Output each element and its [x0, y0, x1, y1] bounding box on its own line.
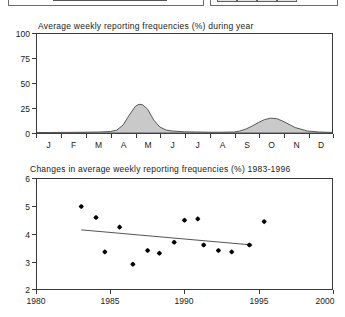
- trend-ytick-4: 4: [6, 230, 30, 240]
- trend-point: [157, 251, 162, 256]
- trend-point: [195, 216, 200, 221]
- trend-chart-title: Changes in average weekly reporting freq…: [30, 164, 290, 174]
- trend-point: [117, 225, 122, 230]
- trend-ytick-5: 5: [6, 202, 30, 212]
- trend-point: [102, 249, 107, 254]
- trend-chart: Changes in average weekly reporting freq…: [0, 0, 345, 317]
- trend-xtick-mark-2000: [333, 290, 334, 294]
- trend-point: [201, 242, 206, 247]
- trend-plot-area: [36, 178, 333, 290]
- trend-point: [229, 249, 234, 254]
- trend-xtick-mark-1990: [184, 290, 185, 294]
- trend-point: [93, 215, 98, 220]
- figure-page: Average weekly reporting frequencies (%)…: [0, 0, 345, 317]
- trend-xtick-1995: 1995: [239, 296, 279, 306]
- trend-xtick-2000: 2000: [305, 296, 345, 306]
- trend-xtick-1990: 1990: [164, 296, 204, 306]
- trend-ytick-6: 6: [6, 174, 30, 184]
- trend-xtick-mark-1995: [259, 290, 260, 294]
- trend-xtick-mark-1985: [110, 290, 111, 294]
- trend-point: [262, 219, 267, 224]
- trend-xtick-mark-1980: [36, 290, 37, 294]
- trend-xtick-1980: 1980: [16, 296, 56, 306]
- trend-point: [247, 242, 252, 247]
- trend-xtick-1985: 1985: [90, 296, 130, 306]
- trend-point: [130, 262, 135, 267]
- trend-ytick-2: 2: [6, 285, 30, 295]
- trend-point: [145, 248, 150, 253]
- trend-ytick-3: 3: [6, 258, 30, 268]
- trend-point: [216, 248, 221, 253]
- trend-point: [79, 204, 84, 209]
- trend-scatter-svg: [37, 179, 332, 289]
- trend-point: [182, 218, 187, 223]
- trend-point: [172, 240, 177, 245]
